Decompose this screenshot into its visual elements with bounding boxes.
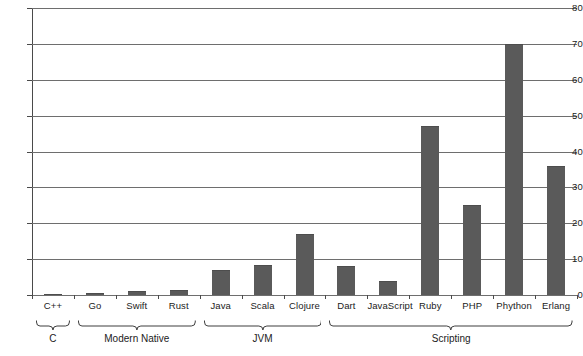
group-brace-icon [329, 320, 573, 331]
bar-java [212, 270, 230, 295]
x-tick-mark-7 [325, 295, 326, 299]
x-tick-label-scala: Scala [242, 300, 284, 312]
x-tick-label-swift: Swift [116, 300, 158, 312]
x-tick-mark-9 [409, 295, 410, 299]
group-brace-icon [36, 320, 70, 331]
x-tick-mark-2 [116, 295, 117, 299]
x-tick-mark-5 [242, 295, 243, 299]
bar-rust [170, 290, 188, 295]
x-tick-mark-1 [74, 295, 75, 299]
x-tick-mark-3 [158, 295, 159, 299]
x-tick-label-clojure: Clojure [284, 300, 326, 312]
group-brace-icon [204, 320, 322, 331]
x-axis-label-layer: C++GoSwiftRustJavaScalaClojureDartJavaSc… [32, 300, 578, 316]
gridline-0 [32, 295, 577, 296]
x-tick-mark-10 [451, 295, 452, 299]
x-tick-mark-end [577, 295, 578, 299]
x-tick-mark-11 [493, 295, 494, 299]
bar-scala [254, 265, 272, 295]
group-label: JVM [204, 333, 322, 345]
bar-javascript [379, 281, 397, 295]
bar-clojure [296, 234, 314, 295]
bar-cpp [44, 294, 62, 296]
group-label: C [36, 333, 70, 345]
x-tick-label-dart: Dart [325, 300, 367, 312]
x-tick-mark-4 [200, 295, 201, 299]
group-scripting: Scripting [329, 320, 573, 356]
group-label: Scripting [329, 333, 573, 345]
bars-layer [32, 8, 577, 295]
bar-php [463, 205, 481, 295]
x-tick-mark-8 [367, 295, 368, 299]
group-jvm: JVM [204, 320, 322, 356]
group-label: Modern Native [78, 333, 196, 345]
group-modern-native: Modern Native [78, 320, 196, 356]
bar-chart: 01020304050607080 C++GoSwiftRustJavaScal… [0, 0, 583, 356]
bar-go [86, 293, 104, 295]
bar-dart [337, 266, 355, 295]
x-tick-label-javascript: JavaScript [367, 300, 409, 312]
bar-swift [128, 291, 146, 295]
bar-phython [505, 44, 523, 295]
x-tick-mark-0 [32, 295, 33, 299]
x-tick-label-ruby: Ruby [409, 300, 451, 312]
group-brace-icon [78, 320, 196, 331]
bar-erlang [547, 166, 565, 295]
x-tick-mark-6 [284, 295, 285, 299]
x-tick-label-erlang: Erlang [535, 300, 577, 312]
x-tick-label-cpp: C++ [32, 300, 74, 312]
x-tick-label-phython: Phython [493, 300, 535, 312]
x-tick-mark-12 [535, 295, 536, 299]
x-tick-label-php: PHP [451, 300, 493, 312]
group-bracket-layer: CModern NativeJVMScripting [32, 320, 578, 356]
x-tick-label-go: Go [74, 300, 116, 312]
x-tick-label-rust: Rust [158, 300, 200, 312]
group-c: C [36, 320, 70, 356]
bar-ruby [421, 126, 439, 295]
x-tick-label-java: Java [200, 300, 242, 312]
